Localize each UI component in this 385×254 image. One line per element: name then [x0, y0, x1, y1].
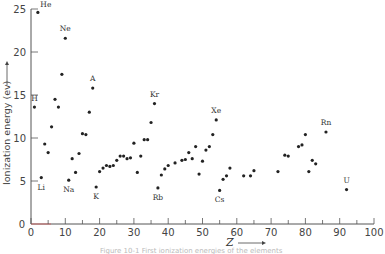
y-tick-label: 25: [13, 4, 26, 15]
data-point: [242, 174, 245, 177]
x-tick-label: 80: [299, 227, 312, 238]
data-point: [88, 111, 91, 114]
data-point: [304, 133, 307, 136]
data-point: [33, 105, 36, 108]
data-point: [84, 133, 87, 136]
data-point: [311, 159, 314, 162]
data-point: [57, 105, 60, 108]
data-point: [115, 159, 118, 162]
y-tick-label: 0: [19, 219, 25, 230]
data-point: [160, 173, 163, 176]
data-point: [60, 73, 63, 76]
element-label: U: [343, 176, 349, 185]
data-point: [125, 157, 128, 160]
data-point: [139, 154, 142, 157]
data-point: [208, 145, 211, 148]
data-point: [211, 133, 214, 136]
x-tick-label: 40: [162, 227, 175, 238]
element-label: Rn: [321, 118, 332, 127]
data-point: [136, 171, 139, 174]
data-point: [276, 170, 279, 173]
data-point: [300, 143, 303, 146]
y-tick-label: 10: [13, 133, 26, 144]
x-tick-label: 50: [196, 227, 209, 238]
data-point: [105, 164, 108, 167]
data-point: [307, 170, 310, 173]
element-label: Rb: [153, 193, 164, 202]
data-point: [36, 11, 39, 14]
element-label: Cs: [215, 195, 225, 204]
data-point: [50, 125, 53, 128]
data-point: [71, 157, 74, 160]
data-point: [98, 170, 101, 173]
data-point: [132, 142, 135, 145]
data-point: [101, 167, 104, 170]
data-point: [218, 189, 221, 192]
x-tick-label: 90: [333, 227, 346, 238]
element-label: He: [40, 0, 52, 9]
y-tick-label: 20: [13, 47, 26, 58]
data-point: [297, 145, 300, 148]
y-tick-label: 5: [20, 176, 26, 187]
x-tick-label: 0: [28, 227, 34, 238]
element-labels: HHeLiNeNaAKKrRbXeCsRnU: [31, 0, 350, 204]
data-point: [112, 164, 115, 167]
data-point: [163, 167, 166, 170]
element-label: A: [89, 74, 96, 83]
chart-axes: [31, 9, 374, 224]
data-point: [81, 132, 84, 135]
data-point: [249, 174, 252, 177]
data-point: [64, 37, 67, 40]
data-point: [228, 167, 231, 170]
element-label: Na: [63, 185, 75, 194]
y-arrowhead-icon: [5, 61, 9, 65]
data-point: [252, 169, 255, 172]
element-label: Kr: [150, 90, 160, 99]
x-tick-label: 30: [128, 227, 141, 238]
data-point: [47, 151, 50, 154]
data-point: [129, 156, 132, 159]
data-point: [53, 98, 56, 101]
data-point: [324, 130, 327, 133]
y-axis-label: Ionization energy (ev): [1, 81, 12, 185]
element-label: Li: [38, 183, 46, 192]
data-point: [201, 160, 204, 163]
data-point: [95, 185, 98, 188]
data-point: [167, 164, 170, 167]
element-label: Xe: [211, 106, 221, 115]
data-point: [215, 118, 218, 121]
data-point: [40, 176, 43, 179]
x-tick-label: 70: [265, 227, 278, 238]
data-point: [204, 148, 207, 151]
x-tick-label: 10: [59, 227, 72, 238]
data-point: [156, 186, 159, 189]
data-point: [221, 178, 224, 181]
element-label: K: [93, 192, 99, 201]
element-label: Ne: [60, 24, 72, 33]
element-label: H: [31, 94, 38, 103]
data-point: [43, 142, 46, 145]
y-tick-label: 15: [13, 90, 26, 101]
data-point: [191, 157, 194, 160]
data-point: [345, 188, 348, 191]
data-point: [149, 121, 152, 124]
data-point: [108, 165, 111, 168]
x-arrowhead-icon: [262, 241, 266, 245]
data-point: [314, 162, 317, 165]
x-tick-label: 100: [364, 227, 383, 238]
data-point: [146, 138, 149, 141]
data-point: [74, 171, 77, 174]
data-point: [287, 154, 290, 157]
data-point: [184, 158, 187, 161]
figure-caption: Figure 10-1 First ionization energies of…: [100, 247, 283, 254]
data-point: [187, 151, 190, 154]
data-point: [153, 102, 156, 105]
data-point: [143, 138, 146, 141]
data-point: [180, 159, 183, 162]
data-point: [197, 173, 200, 176]
data-point: [283, 154, 286, 157]
data-point: [67, 179, 70, 182]
ionization-energy-chart: 01020304050607080901000510152025 HHeLiNe…: [0, 0, 385, 254]
data-point: [194, 145, 197, 148]
data-points: [33, 11, 348, 192]
